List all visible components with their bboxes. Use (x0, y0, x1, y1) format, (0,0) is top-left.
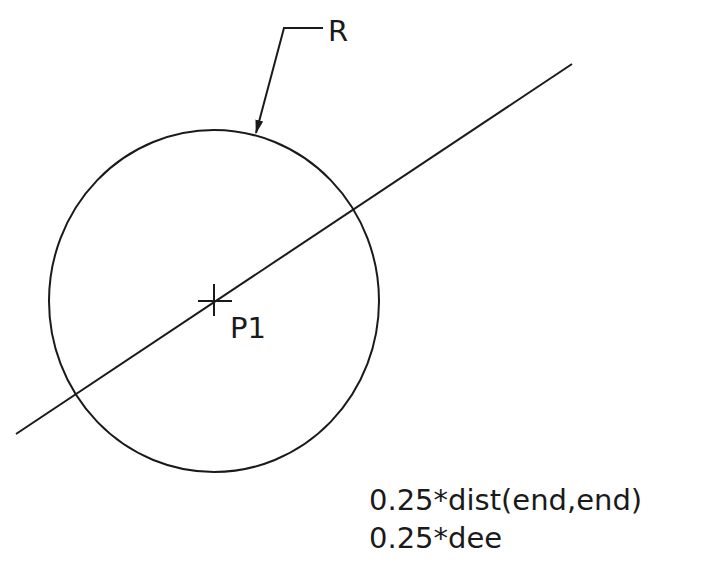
point-p1-label: P1 (230, 311, 266, 345)
expression-line-2: 0.25*dee (369, 521, 502, 555)
radius-leader-arrow-icon (256, 28, 323, 133)
drawing-canvas: P1 R 0.25*dist(end,end) 0.25*dee (0, 0, 710, 565)
diagonal-line (16, 64, 572, 434)
point-p1-cross-icon (198, 284, 232, 316)
expression-line-1: 0.25*dist(end,end) (369, 483, 642, 517)
radius-label: R (328, 14, 348, 48)
